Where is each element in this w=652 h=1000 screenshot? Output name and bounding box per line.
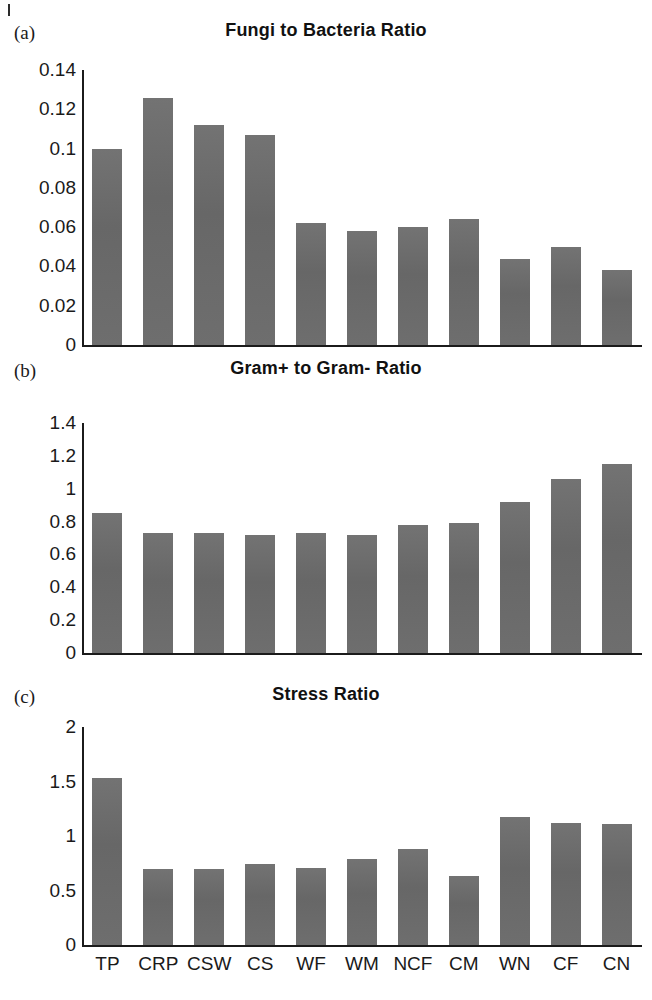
bar-CF	[551, 823, 581, 945]
bar-WN	[500, 817, 530, 945]
bar-CN	[602, 464, 632, 653]
bar-TP	[92, 778, 122, 945]
x-label-WF: WF	[296, 953, 326, 975]
bar-CM	[449, 219, 479, 345]
bar-WN	[500, 502, 530, 653]
panel-a-bars	[0, 0, 652, 352]
bar-CS	[245, 535, 275, 653]
bar-TP	[92, 149, 122, 345]
bar-WF	[296, 868, 326, 945]
bar-CRP	[143, 869, 173, 945]
bar-CRP	[143, 533, 173, 653]
bar-CN	[602, 824, 632, 945]
bar-CRP	[143, 98, 173, 346]
figure-panel-group: (a) Fungi to Bacteria Ratio 0.140.120.10…	[0, 0, 652, 1000]
bar-CS	[245, 864, 275, 945]
x-axis-category-labels: TPCRPCSWCSWFWMNCFCMWNCFCN	[0, 953, 652, 981]
bar-WF	[296, 533, 326, 653]
bar-NCF	[398, 227, 428, 345]
x-label-CSW: CSW	[187, 953, 231, 975]
bar-NCF	[398, 849, 428, 945]
panel-c-plot-area: 21.510.50 TPCRPCSWCSWFWMNCFCMWNCFCN	[0, 660, 652, 1000]
bar-WN	[500, 259, 530, 345]
panel-c: (c) Stress Ratio 21.510.50 TPCRPCSWCSWFW…	[0, 660, 652, 1000]
bar-NCF	[398, 525, 428, 653]
bar-CSW	[194, 869, 224, 945]
x-label-CF: CF	[553, 953, 578, 975]
bar-CM	[449, 876, 479, 945]
bar-WM	[347, 231, 377, 345]
panel-a-plot-area: 0.140.120.10.080.060.040.020	[0, 0, 652, 352]
panel-b-bars	[0, 352, 652, 660]
bar-WM	[347, 535, 377, 653]
panel-a: (a) Fungi to Bacteria Ratio 0.140.120.10…	[0, 0, 652, 352]
x-label-TP: TP	[95, 953, 119, 975]
bar-WF	[296, 223, 326, 345]
x-label-WN: WN	[499, 953, 531, 975]
bar-CS	[245, 135, 275, 345]
x-label-CN: CN	[603, 953, 630, 975]
bar-TP	[92, 513, 122, 653]
panel-c-bars	[0, 660, 652, 1000]
x-label-CM: CM	[449, 953, 479, 975]
panel-b-plot-area: 1.41.210.80.60.40.20	[0, 352, 652, 660]
panel-b: (b) Gram+ to Gram- Ratio 1.41.210.80.60.…	[0, 352, 652, 660]
bar-CN	[602, 270, 632, 345]
bar-CF	[551, 247, 581, 345]
bar-CSW	[194, 125, 224, 345]
x-label-CS: CS	[247, 953, 273, 975]
x-label-NCF: NCF	[393, 953, 432, 975]
bar-CSW	[194, 533, 224, 653]
bar-CF	[551, 479, 581, 653]
x-label-WM: WM	[345, 953, 379, 975]
bar-CM	[449, 523, 479, 653]
x-label-CRP: CRP	[138, 953, 178, 975]
bar-WM	[347, 859, 377, 945]
